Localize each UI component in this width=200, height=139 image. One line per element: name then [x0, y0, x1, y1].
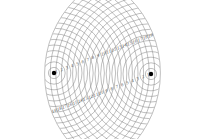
upper-label-line-label: 7: [86, 57, 91, 63]
lower-label-line-label: 9: [104, 88, 109, 94]
wave-ring: [0, 0, 160, 139]
wave-ring: [56, 0, 200, 139]
upper-label-line-label: 8: [91, 55, 96, 61]
right-source-dot: [149, 72, 153, 76]
wave-ring: [0, 0, 138, 139]
lower-label-line-label: 7: [115, 84, 120, 90]
wave-ring: [73, 0, 200, 139]
interference-canvas: 1234567891011121314151617181912345678910…: [0, 0, 200, 139]
wave-ring: [78, 1, 200, 139]
lower-label-line-label: 3: [136, 76, 141, 82]
interference-diagram: 1234567891011121314151617181912345678910…: [0, 0, 200, 139]
wave-ring: [61, 0, 200, 139]
lower-label-line-label: 10: [98, 89, 105, 96]
upper-label-line-label: 19: [147, 32, 154, 39]
lower-label-line-label: 5: [125, 80, 130, 86]
lower-label-line-label: 6: [120, 82, 125, 88]
left-source-rings: [0, 0, 160, 139]
wave-ring: [84, 7, 200, 139]
left-source-dot: [52, 71, 56, 75]
upper-label-line-label: 6: [81, 59, 86, 65]
